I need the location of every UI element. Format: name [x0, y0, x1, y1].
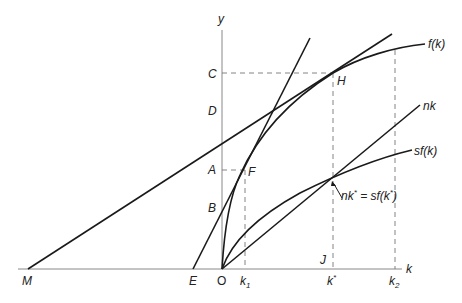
nk-label: nk: [423, 99, 437, 113]
solow-diagram: y k O M E C D A B H F J f(k) nk sf(k) k1…: [0, 0, 462, 303]
k1-label: k1: [240, 274, 250, 290]
point-B-label: B: [208, 201, 216, 215]
k-axis-label: k: [406, 262, 413, 276]
point-F-label: F: [248, 165, 256, 179]
f-k-label: f(k): [428, 37, 445, 51]
k2-label: k2: [389, 274, 400, 290]
nk-line: [222, 105, 420, 269]
point-C-label: C: [208, 67, 217, 81]
equilibrium-annotation: nk* = sf(k*): [341, 188, 397, 203]
point-D-label: D: [208, 104, 217, 118]
y-axis-label: y: [217, 12, 225, 26]
point-A-label: A: [207, 163, 216, 177]
point-E-label: E: [189, 274, 198, 288]
sf-k-label: sf(k): [414, 144, 437, 158]
kstar-label: k*: [327, 273, 337, 288]
origin-label: O: [217, 274, 226, 288]
point-H-label: H: [337, 74, 346, 88]
point-M-label: M: [22, 274, 32, 288]
arrow-head-icon: [331, 181, 336, 186]
point-J-label: J: [319, 253, 327, 267]
